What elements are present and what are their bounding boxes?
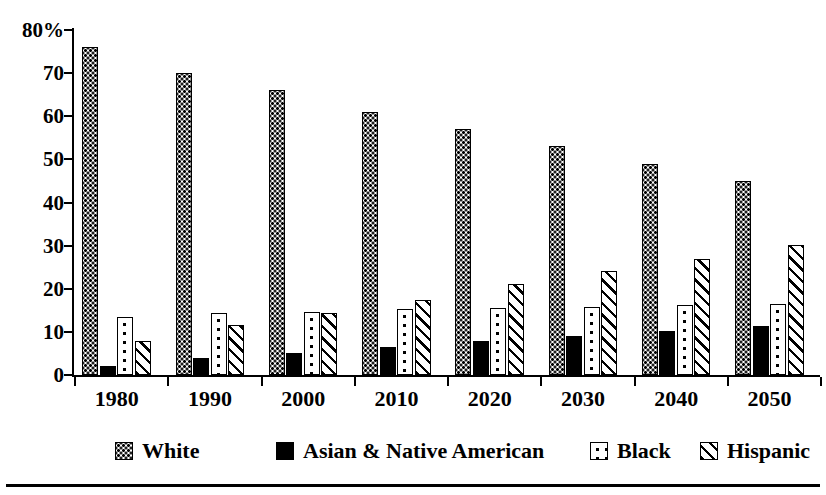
bar <box>508 284 524 375</box>
legend-swatch-icon <box>590 442 608 460</box>
chart-legend: WhiteAsian & Native AmericanBlackHispani… <box>0 440 826 474</box>
bar <box>473 341 489 376</box>
legend-label: White <box>142 440 199 462</box>
legend-label: Black <box>617 440 671 462</box>
legend-item-asian-native-american[interactable]: Asian & Native American <box>276 440 544 462</box>
legend-swatch-icon <box>115 442 133 460</box>
bar-group <box>735 25 804 375</box>
bar <box>269 90 285 375</box>
bar-group <box>455 25 524 375</box>
bar-group <box>176 25 245 375</box>
legend-label: Asian & Native American <box>303 440 544 462</box>
legend-item-white[interactable]: White <box>115 440 199 462</box>
x-axis-tick-label: 2030 <box>561 386 605 412</box>
bar <box>176 73 192 375</box>
x-axis-tick-label: 2010 <box>374 386 418 412</box>
x-axis-tick-label: 2000 <box>281 386 325 412</box>
legend-swatch-icon <box>276 442 294 460</box>
legend-item-black[interactable]: Black <box>590 440 671 462</box>
bar <box>211 313 227 375</box>
bar <box>455 129 471 375</box>
bar <box>321 313 337 375</box>
bar <box>694 259 710 375</box>
bar <box>286 353 302 375</box>
bar <box>362 112 378 375</box>
bar <box>659 331 675 375</box>
bar <box>117 317 133 375</box>
bar-group <box>82 25 151 375</box>
bar <box>228 325 244 375</box>
bar <box>788 245 804 375</box>
bar <box>549 146 565 375</box>
legend-item-hispanic[interactable]: Hispanic <box>700 440 810 462</box>
bar-chart-figure: 01020304050607080% 198019902000201020202… <box>0 0 826 495</box>
bar <box>82 47 98 375</box>
footer-divider <box>6 484 820 487</box>
bar <box>770 304 786 375</box>
plot-area: 01020304050607080% 198019902000201020202… <box>0 0 826 400</box>
bar-group <box>362 25 431 375</box>
x-axis-tick-label: 1980 <box>95 386 139 412</box>
bar <box>490 308 506 375</box>
bar-group <box>269 25 338 375</box>
x-axis-tick-label: 1990 <box>188 386 232 412</box>
bar-group <box>549 25 618 375</box>
legend-swatch-icon <box>700 442 718 460</box>
x-axis-tick-label: 2020 <box>468 386 512 412</box>
bar <box>135 341 151 376</box>
bar <box>415 300 431 375</box>
bar <box>677 305 693 375</box>
x-axis-tick-label: 2040 <box>654 386 698 412</box>
bar <box>601 271 617 375</box>
bar <box>584 307 600 375</box>
bar <box>735 181 751 375</box>
bar <box>753 326 769 375</box>
bar <box>304 312 320 375</box>
bar <box>100 366 116 375</box>
legend-label: Hispanic <box>727 440 810 462</box>
bar-groups <box>0 0 826 400</box>
bar <box>642 164 658 375</box>
bar <box>380 347 396 375</box>
bar <box>397 309 413 375</box>
x-axis-tick-label: 2050 <box>747 386 791 412</box>
bar-group <box>642 25 711 375</box>
bar <box>193 358 209 375</box>
bar <box>566 336 582 375</box>
